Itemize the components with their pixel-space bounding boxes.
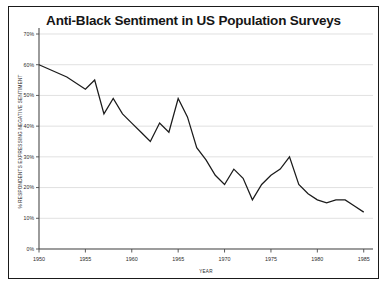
x-tick-label: 1980 xyxy=(311,256,323,262)
x-tick-label: 1975 xyxy=(265,256,277,262)
plot-area: 0%10%20%30%40%50%60%70% 1950195519601965… xyxy=(9,7,380,280)
y-tick-labels-group: 0%10%20%30%40%50%60%70% xyxy=(24,31,35,252)
data-line-series-0 xyxy=(39,65,364,212)
chart-frame: Anti-Black Sentiment in US Population Su… xyxy=(8,6,379,279)
x-tick-label: 1960 xyxy=(126,256,138,262)
y-tick-label: 20% xyxy=(24,184,35,190)
y-tick-label: 30% xyxy=(24,154,35,160)
y-tick-label: 10% xyxy=(24,215,35,221)
y-tick-label: 50% xyxy=(24,92,35,98)
chart-svg: 0%10%20%30%40%50%60%70% 1950195519601965… xyxy=(9,7,380,280)
x-tick-label: 1970 xyxy=(219,256,231,262)
y-tick-label: 70% xyxy=(24,31,35,37)
x-tick-labels-group: 19501955196019651970197519801985 xyxy=(33,256,370,262)
y-tick-label: 40% xyxy=(24,123,35,129)
x-tick-label: 1955 xyxy=(79,256,91,262)
y-axis-title: % RESPONDENTS EXPRESSING NEGATIVE SENTIM… xyxy=(18,74,23,208)
y-tick-label: 0% xyxy=(27,246,35,252)
x-tick-label: 1965 xyxy=(172,256,184,262)
x-tick-label: 1950 xyxy=(33,256,45,262)
gridlines-group xyxy=(39,34,373,249)
x-axis-title: YEAR xyxy=(199,269,213,274)
x-tick-label: 1985 xyxy=(358,256,370,262)
y-tick-label: 60% xyxy=(24,62,35,68)
